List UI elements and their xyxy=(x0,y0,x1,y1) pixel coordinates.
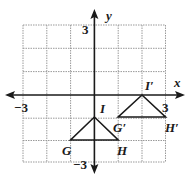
vertex-label-g: G xyxy=(62,143,72,158)
y-tick-bottom: −3 xyxy=(73,157,87,172)
vertex-label-g-prime: G′ xyxy=(113,120,126,135)
y-tick-top: 3 xyxy=(82,22,89,37)
x-tick-left: −3 xyxy=(14,100,28,115)
vertex-label-h-prime: H′ xyxy=(164,120,179,135)
axes xyxy=(5,9,185,174)
coordinate-plane: y x 3 −3 −3 3 I G H G′ H′ I′ xyxy=(0,0,191,181)
y-axis-label: y xyxy=(104,8,112,23)
x-axis-label: x xyxy=(173,75,181,90)
vertex-label-i-prime: I′ xyxy=(144,78,154,93)
vertex-label-h: H xyxy=(116,143,128,158)
vertex-label-i: I xyxy=(99,101,106,116)
x-tick-right: 3 xyxy=(162,100,169,115)
